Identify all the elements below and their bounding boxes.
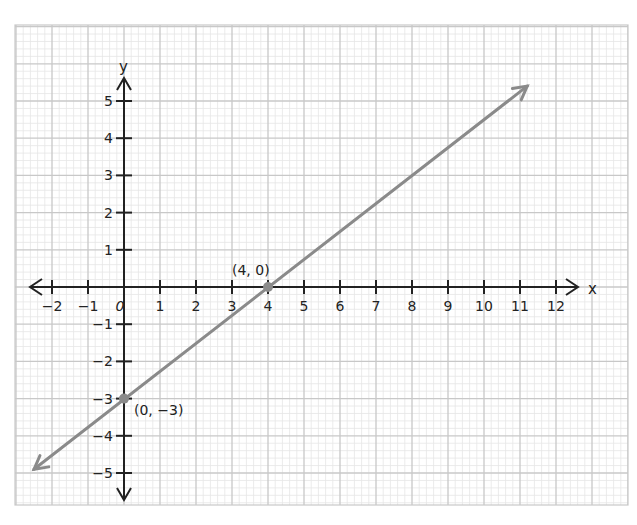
x-tick-label: −2 (42, 298, 63, 314)
x-tick-label: 6 (336, 298, 345, 314)
x-tick-label: 1 (156, 298, 165, 314)
point-label: (4, 0) (232, 262, 270, 278)
y-tick-label: 4 (104, 130, 113, 146)
x-axis-label: x (588, 280, 597, 298)
y-axis-label: y (119, 58, 128, 76)
y-tick-label: 3 (104, 167, 113, 183)
y-tick-label: 5 (104, 93, 113, 109)
x-tick-label: 11 (511, 298, 529, 314)
point-label: (0, −3) (134, 402, 183, 418)
x-tick-label: 5 (300, 298, 309, 314)
y-tick-label: −4 (92, 428, 113, 444)
y-tick-label: −3 (92, 391, 113, 407)
x-tick-label: −1 (78, 298, 99, 314)
x-tick-label: 0 (116, 298, 125, 314)
data-point (119, 394, 129, 404)
x-tick-label: 10 (475, 298, 493, 314)
data-point (263, 282, 273, 292)
y-tick-label: −2 (92, 353, 113, 369)
x-tick-label: 9 (444, 298, 453, 314)
y-tick-label: −1 (92, 316, 113, 332)
x-tick-label: 8 (408, 298, 417, 314)
y-tick-label: −5 (92, 465, 113, 481)
x-tick-label: 12 (547, 298, 565, 314)
x-tick-label: 4 (264, 298, 273, 314)
y-tick-label: 1 (104, 242, 113, 258)
x-tick-label: 7 (372, 298, 381, 314)
x-tick-label: 2 (192, 298, 201, 314)
graph-paper-chart: −2−10123456789101112−5−4−3−2−112345 x y … (0, 0, 637, 525)
y-tick-label: 2 (104, 205, 113, 221)
